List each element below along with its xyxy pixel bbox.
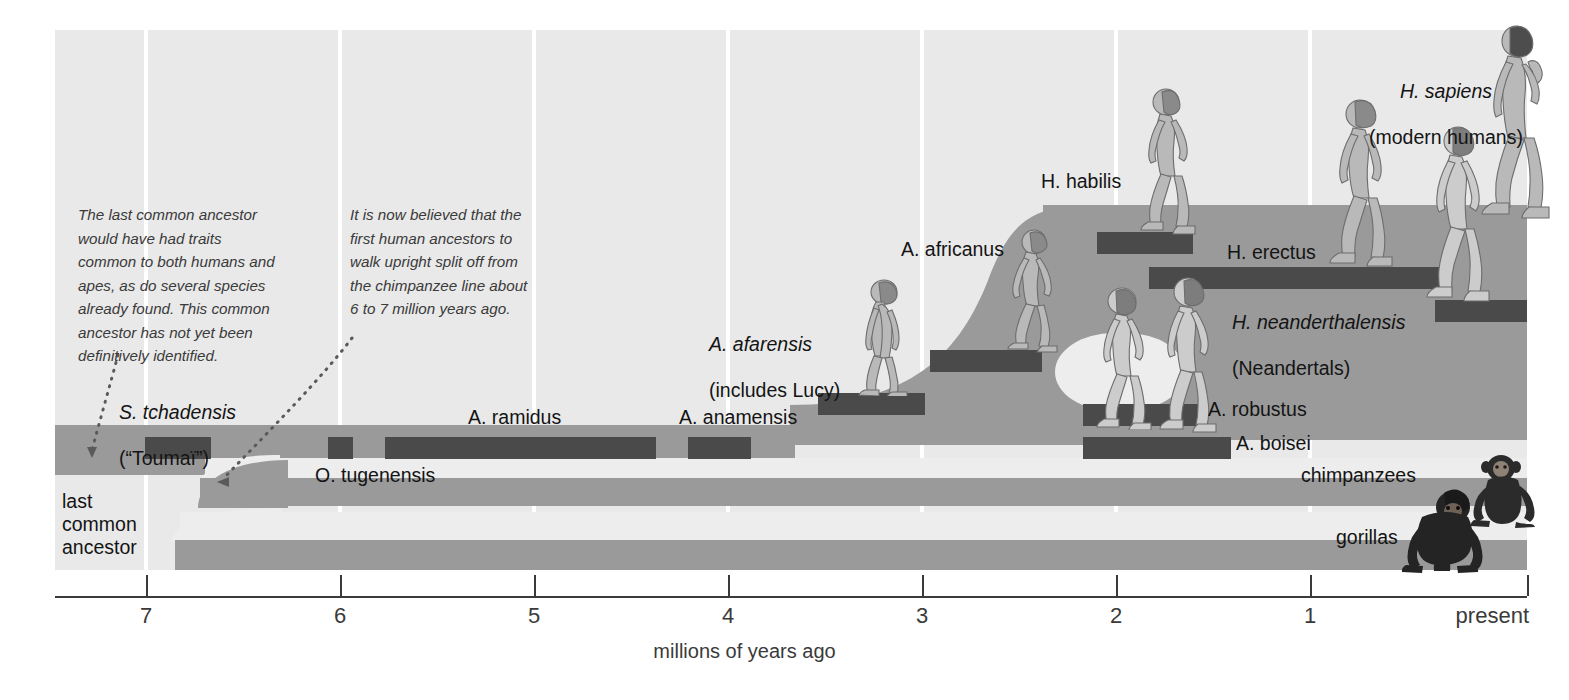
species-bar-a-ramidus xyxy=(385,437,656,459)
label-o-tugenensis: O. tugenensis xyxy=(315,464,435,487)
x-axis-label-4: 4 xyxy=(722,603,734,629)
label-h-sapiens-common: (modern humans) xyxy=(1369,126,1523,148)
species-bar-a-anamensis xyxy=(688,437,751,459)
label-h-neanderthalensis: H. neanderthalensis (Neandertals) xyxy=(1232,288,1405,380)
label-s-tchadensis: S. tchadensis (“Toumaï”) xyxy=(119,378,236,470)
label-h-sapiens-binomial: H. sapiens xyxy=(1400,80,1492,102)
label-s-tchadensis-binomial: S. tchadensis xyxy=(119,401,236,423)
figure-a-afarensis xyxy=(838,278,918,396)
label-a-africanus: A. africanus xyxy=(901,238,1004,261)
label-chimpanzees: chimpanzees xyxy=(1301,464,1416,487)
x-axis-label-3: 3 xyxy=(916,603,928,629)
x-axis-line xyxy=(55,596,1527,598)
label-a-afarensis-binomial: A. afarensis xyxy=(709,333,812,355)
x-axis-label-5: 5 xyxy=(528,603,540,629)
label-last-common-ancestor: last common ancestor xyxy=(62,490,212,559)
species-bar-o-tugenensis xyxy=(328,437,353,459)
label-a-afarensis-common: (includes Lucy) xyxy=(709,379,840,401)
label-h-erectus: H. erectus xyxy=(1227,241,1316,264)
x-axis-title-text: millions of years ago xyxy=(653,640,835,662)
x-axis-tick-6 xyxy=(340,575,342,596)
figure-a-africanus xyxy=(994,228,1070,356)
label-a-boisei: A. boisei xyxy=(1236,432,1311,455)
x-axis-tick-1 xyxy=(1310,575,1312,596)
figure-gorilla xyxy=(1398,487,1494,575)
x-axis-tick-present xyxy=(1527,575,1529,596)
label-a-robustus: A. robustus xyxy=(1208,398,1307,421)
label-s-tchadensis-common: (“Toumaï”) xyxy=(119,447,209,469)
label-h-habilis: H. habilis xyxy=(1041,170,1121,193)
species-bar-a-boisei xyxy=(1083,437,1231,459)
label-a-afarensis: A. afarensis (includes Lucy) xyxy=(709,310,840,402)
x-axis-tick-5 xyxy=(534,575,536,596)
x-axis-label-1: 1 xyxy=(1304,603,1316,629)
label-h-sapiens: H. sapiens (modern humans) xyxy=(1369,57,1523,149)
figure-h-habilis xyxy=(1134,86,1206,236)
gorilla-band xyxy=(175,540,1527,570)
x-axis-title: millions of years ago xyxy=(0,640,1569,663)
note-last-common-ancestor: The last common ancestor would have had … xyxy=(78,203,346,368)
x-axis-label-2: 2 xyxy=(1110,603,1122,629)
x-axis-tick-2 xyxy=(1116,575,1118,596)
x-axis-label-7: 7 xyxy=(140,603,152,629)
x-axis-tick-4 xyxy=(728,575,730,596)
x-axis-label-6: 6 xyxy=(334,603,346,629)
evolution-timeline-figure: The last common ancestor would have had … xyxy=(0,0,1569,700)
x-axis-tick-3 xyxy=(922,575,924,596)
note-upright-split: It is now believed that the first human … xyxy=(350,203,565,321)
label-h-neanderthalensis-binomial: H. neanderthalensis xyxy=(1232,311,1405,333)
x-axis-label-present: present xyxy=(1456,603,1529,629)
label-h-neanderthalensis-common: (Neandertals) xyxy=(1232,357,1350,379)
label-gorillas: gorillas xyxy=(1336,526,1398,549)
label-a-anamensis: A. anamensis xyxy=(679,406,797,429)
x-axis-tick-7 xyxy=(146,575,148,596)
gorilla-band-gap xyxy=(180,512,1527,540)
label-a-ramidus: A. ramidus xyxy=(468,406,561,429)
